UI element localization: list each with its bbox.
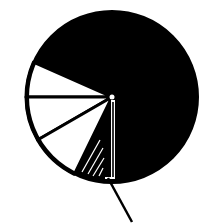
pie-chart xyxy=(0,0,211,224)
vertical-bar-foot xyxy=(105,177,115,179)
vertical-bar-inner xyxy=(112,102,114,177)
pointer-line xyxy=(108,178,132,222)
center-dot xyxy=(110,95,115,100)
pointer-line-stroke xyxy=(108,178,132,222)
